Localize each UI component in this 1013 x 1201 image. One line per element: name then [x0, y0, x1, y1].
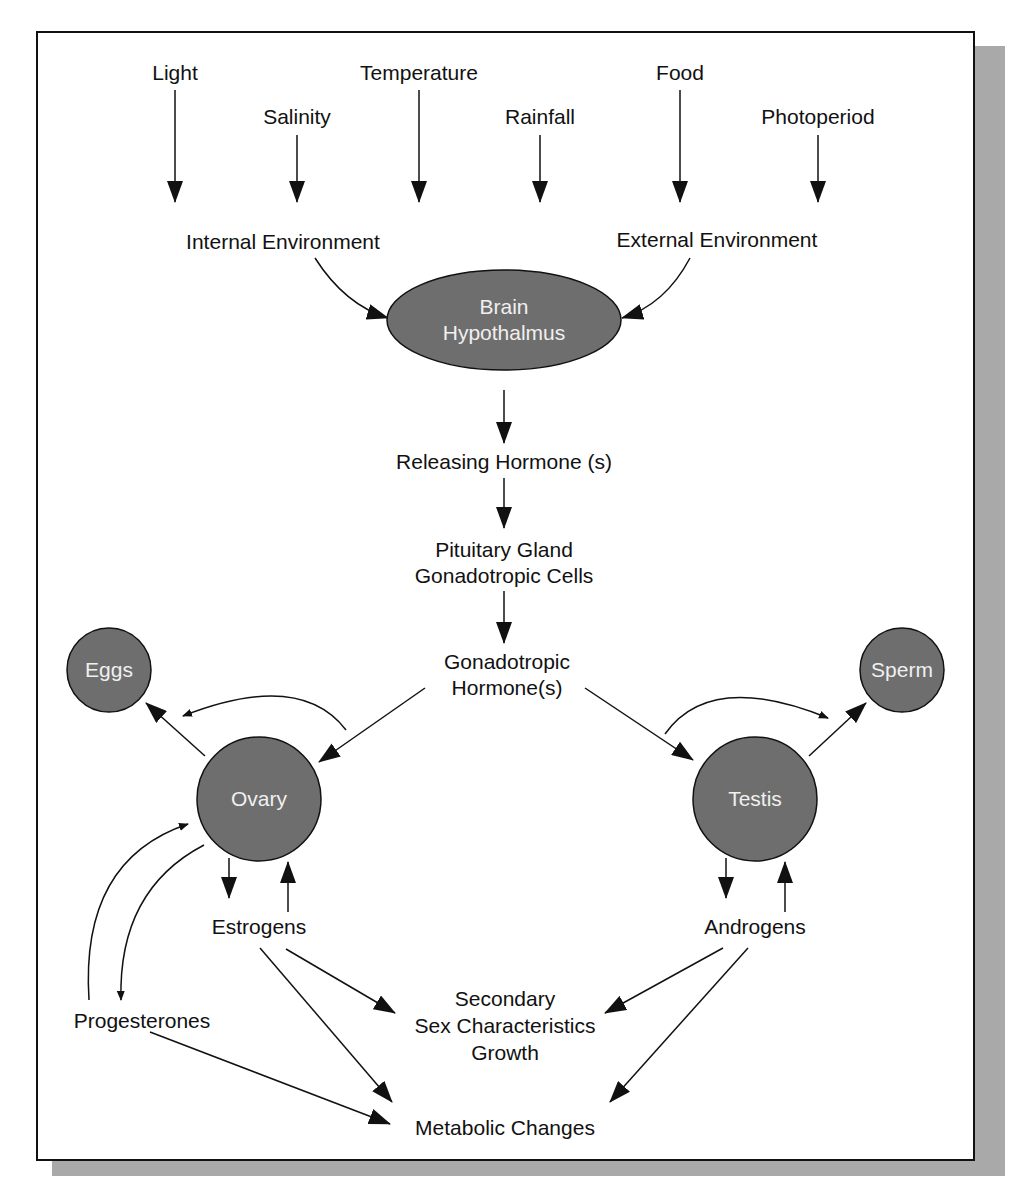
pituitary-line1: Pituitary Gland: [415, 537, 594, 563]
testis-label: Testis: [728, 786, 782, 812]
label-temperature: Temperature: [360, 60, 478, 86]
label-secondary-characteristics: Secondary Sex Characteristics Growth: [415, 985, 596, 1066]
gonadotropic-line2: Hormone(s): [444, 675, 570, 701]
arrow-external-to-brain: [622, 258, 690, 318]
arrow-gonadotropic-to-ovary: [319, 688, 425, 762]
label-photoperiod: Photoperiod: [761, 104, 874, 130]
label-gonadotropic-hormone: Gonadotropic Hormone(s): [444, 649, 570, 701]
brain-label: Brain Hypothalmus: [443, 294, 566, 346]
eggs-label: Eggs: [85, 657, 133, 683]
ovary-label: Ovary: [231, 786, 287, 812]
label-androgens: Androgens: [704, 914, 806, 940]
label-salinity: Salinity: [263, 104, 331, 130]
arrow-progesterones-to-metabolic: [150, 1032, 390, 1124]
label-progesterones: Progesterones: [74, 1008, 211, 1034]
arrow-androgens-to-secondary: [605, 948, 723, 1013]
arrow-androgens-to-metabolic: [610, 948, 748, 1102]
brain-label-line1: Brain: [443, 294, 566, 320]
label-external-environment: External Environment: [617, 227, 818, 253]
label-releasing-hormone: Releasing Hormone (s): [396, 449, 612, 475]
label-internal-environment: Internal Environment: [186, 229, 380, 255]
secondary-line3: Growth: [415, 1039, 596, 1066]
sperm-label: Sperm: [871, 657, 933, 683]
label-rainfall: Rainfall: [505, 104, 575, 130]
arrow-testis-feedback-curve: [665, 697, 828, 734]
secondary-line2: Sex Characteristics: [415, 1012, 596, 1039]
arrow-gonadotropic-to-testis: [585, 688, 693, 760]
secondary-line1: Secondary: [415, 985, 596, 1012]
arrow-ovary-to-progesterones: [121, 845, 204, 1000]
label-food: Food: [656, 60, 704, 86]
arrow-testis-to-sperm: [809, 703, 866, 756]
label-metabolic-changes: Metabolic Changes: [415, 1115, 595, 1141]
arrow-estrogens-to-secondary: [286, 949, 395, 1013]
arrow-estrogens-to-metabolic: [260, 948, 392, 1102]
label-pituitary: Pituitary Gland Gonadotropic Cells: [415, 537, 594, 589]
arrow-ovary-feedback-curve: [183, 696, 346, 730]
label-estrogens: Estrogens: [212, 914, 307, 940]
pituitary-line2: Gonadotropic Cells: [415, 563, 594, 589]
gonadotropic-line1: Gonadotropic: [444, 649, 570, 675]
arrow-internal-to-brain: [315, 258, 388, 318]
brain-label-line2: Hypothalmus: [443, 320, 566, 346]
label-light: Light: [152, 60, 198, 86]
